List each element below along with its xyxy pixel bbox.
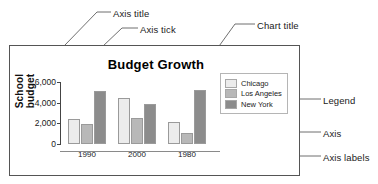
y-tick-mark: [57, 123, 61, 124]
annotation-axis-labels: Axis labels: [323, 152, 370, 163]
bar-group: [168, 82, 206, 144]
annotation-legend: Legend: [323, 95, 355, 106]
legend-label: Los Angeles: [241, 89, 282, 98]
y-tick-label: 0: [51, 139, 56, 149]
legend-item[interactable]: Chicago: [225, 79, 283, 88]
legend-label: New York: [241, 100, 273, 109]
legend-item[interactable]: New York: [225, 100, 283, 109]
y-tick-label: 6,000: [35, 77, 56, 87]
bar: [118, 98, 130, 145]
x-tick-mark: [137, 152, 138, 155]
legend: ChicagoLos AngelesNew York: [220, 73, 288, 114]
bar: [181, 133, 193, 144]
legend-swatch-icon: [225, 79, 237, 88]
y-axis-title: School budget: [14, 56, 36, 126]
legend-item[interactable]: Los Angeles: [225, 89, 283, 98]
bar: [94, 91, 106, 144]
y-axis-line: [60, 82, 61, 144]
bar: [68, 119, 80, 144]
x-tick-mark: [187, 152, 188, 155]
bar: [168, 122, 180, 144]
bar: [81, 124, 93, 144]
bar-group: [68, 82, 106, 144]
annotation-axis-title: Axis title: [113, 8, 149, 19]
y-tick-mark: [57, 144, 61, 145]
legend-swatch-icon: [225, 100, 237, 109]
y-tick-label: 4,000: [35, 98, 56, 108]
y-tick-mark: [57, 103, 61, 104]
legend-swatch-icon: [225, 89, 237, 98]
annotation-axis-tick: Axis tick: [140, 24, 176, 35]
bar: [194, 90, 206, 144]
y-tick-label: 2,000: [35, 118, 56, 128]
legend-label: Chicago: [241, 79, 269, 88]
y-tick-mark: [57, 82, 61, 83]
bar: [144, 104, 156, 144]
plot-area: 02,0004,0006,000 199020001980: [62, 82, 214, 144]
bar: [131, 118, 143, 144]
x-tick-mark: [87, 152, 88, 155]
chart-title: Budget Growth: [96, 57, 216, 72]
annotation-axis: Axis: [323, 128, 341, 139]
annotation-chart-title: Chart title: [257, 20, 299, 31]
bar-group: [118, 82, 156, 144]
